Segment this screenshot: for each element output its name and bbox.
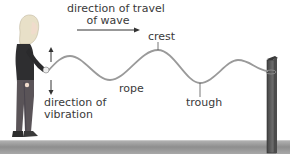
ground (0, 140, 290, 154)
down-arrow-icon (49, 80, 54, 95)
rope-wave (48, 50, 268, 83)
right-arrow-icon (77, 28, 140, 33)
crest-label: crest (148, 31, 175, 43)
up-arrow-icon (49, 47, 54, 62)
vibration-label: direction of vibration (44, 97, 106, 121)
vibration-label-line2: vibration (44, 109, 106, 121)
rope-label: rope (119, 83, 144, 95)
trough-label: trough (186, 97, 222, 109)
travel-label-line2: of wave (67, 15, 149, 27)
travel-label: direction of travel of wave (67, 3, 149, 27)
